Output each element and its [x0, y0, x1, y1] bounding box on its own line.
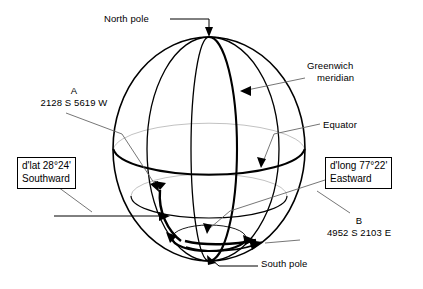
leader-greenwich	[247, 78, 305, 90]
dlat-arrowhead-lower	[166, 232, 177, 243]
equator-line-back	[113, 123, 304, 149]
label-point-a: A 2128 S 5619 W	[22, 85, 126, 109]
leader-dlat	[58, 187, 92, 212]
callout-box-dlong: d'long 77°22' Eastward	[325, 157, 392, 189]
label-point-b: B 4952 S 2103 E	[305, 215, 413, 239]
dlong-value: d'long 77°22'	[330, 160, 387, 173]
label-greenwich-line2: meridian	[307, 72, 387, 84]
dlong-arrowhead-outer	[249, 240, 262, 250]
leader-equator	[274, 124, 320, 134]
label-north-pole: North pole	[104, 13, 149, 25]
diagram-canvas: North pole Greenwich meridian Equator A …	[0, 0, 423, 289]
leader-point-a	[66, 113, 122, 134]
label-greenwich-meridian: Greenwich meridian	[307, 60, 387, 84]
greenwich-meridian	[209, 37, 237, 261]
dlong-direction: Eastward	[330, 173, 387, 186]
leader-point-a-2	[122, 134, 156, 186]
leader-point-b-2	[265, 240, 300, 243]
globe-illustration	[0, 0, 423, 289]
dlat-direction: Southward	[22, 173, 71, 186]
meridian-left	[147, 37, 209, 261]
point-b-name: B	[305, 215, 413, 227]
point-b-position: 4952 S 2103 E	[305, 227, 413, 239]
arrowhead-north-pole	[205, 27, 213, 37]
point-a-name: A	[22, 85, 126, 97]
callout-box-dlat: d'lat 28°24' Southward	[17, 157, 76, 189]
leader-north-pole	[170, 19, 209, 32]
label-greenwich-line1: Greenwich	[307, 60, 387, 72]
equator-line	[113, 149, 304, 175]
arrowhead-greenwich	[240, 86, 251, 96]
parallel-latitude-a	[131, 196, 287, 218]
label-equator: Equator	[323, 119, 357, 131]
label-south-pole: South pole	[261, 258, 307, 270]
leader-equator-down	[263, 134, 274, 162]
dlat-value: d'lat 28°24'	[22, 160, 71, 173]
leader-point-b	[317, 191, 350, 213]
point-a-position: 2128 S 5619 W	[22, 97, 126, 109]
